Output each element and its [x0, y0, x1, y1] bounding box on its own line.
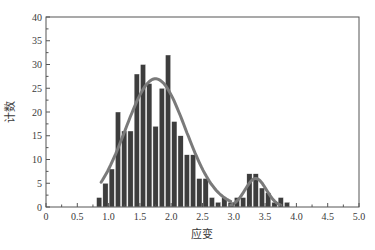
x-tick-label: 3.0: [228, 211, 241, 222]
y-tick-label: 20: [32, 107, 42, 118]
histogram-bar: [97, 198, 102, 208]
x-tick-label: 0.5: [71, 211, 84, 222]
histogram-bar: [241, 198, 246, 208]
histogram-bar: [197, 179, 202, 208]
histogram-bar: [178, 136, 183, 207]
x-tick-label: 1.0: [102, 211, 115, 222]
histogram-bar: [247, 174, 252, 207]
histogram-bar: [115, 112, 120, 207]
x-tick-label: 0: [44, 211, 49, 222]
histogram-bar: [209, 198, 214, 208]
y-tick-label: 5: [37, 178, 42, 189]
y-tick-label: 30: [32, 59, 42, 70]
x-tick-label: 2.0: [165, 211, 178, 222]
histogram-bar: [134, 74, 139, 207]
histogram-bar: [122, 131, 127, 207]
y-axis-title: 计数: [4, 101, 17, 123]
y-tick-label: 40: [32, 12, 42, 23]
y-axis: 0510152025303540: [32, 12, 50, 213]
histogram-bar: [190, 155, 195, 207]
histogram-bar: [165, 55, 170, 207]
histogram-bar: [259, 188, 264, 207]
histogram-bar: [147, 84, 152, 208]
x-tick-label: 4.5: [321, 211, 334, 222]
x-tick-label: 1.5: [134, 211, 147, 222]
y-tick-label: 15: [32, 130, 42, 141]
histogram-bar: [203, 179, 208, 208]
x-axis-title: 应变: [191, 227, 213, 241]
x-tick-label: 2.5: [196, 211, 209, 222]
x-tick-label: 5.0: [353, 211, 366, 222]
y-tick-label: 10: [32, 154, 42, 165]
y-tick-label: 25: [32, 83, 42, 94]
histogram-chart: 0510152025303540 00.51.01.52.02.53.03.54…: [0, 0, 375, 250]
histogram-bar: [153, 126, 158, 207]
histogram-bar: [109, 169, 114, 207]
plot-frame: [46, 17, 359, 207]
y-tick-label: 0: [37, 202, 42, 213]
x-tick-label: 4.0: [290, 211, 303, 222]
x-tick-label: 3.5: [259, 211, 272, 222]
histogram-bar: [172, 122, 177, 208]
histogram-bar: [128, 131, 133, 207]
y-tick-label: 35: [32, 35, 42, 46]
histogram-bar: [184, 155, 189, 207]
histogram-bar: [159, 88, 164, 207]
histogram-bar: [284, 202, 289, 207]
histogram-bar: [103, 183, 108, 207]
